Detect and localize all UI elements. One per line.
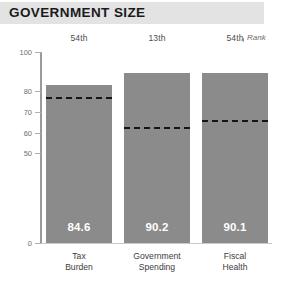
plot-area: 100 80 70 60 50 0 84.6 90.2 90.1 Tax Bur… [0,0,282,283]
bar-tax-burden [46,85,112,243]
bar-fiscal-health [202,73,268,243]
average-line-fiscal-health [202,120,268,122]
average-line-tax-burden [46,97,112,99]
y-tick-mark-50 [35,153,41,154]
y-tick-mark-100 [35,52,41,53]
x-axis-baseline [40,243,272,244]
bar-government-spending [124,73,190,243]
average-line-government-spending [124,127,190,129]
bar-value-tax-burden: 84.6 [46,221,112,233]
category-label-line-2: Burden [40,262,118,273]
category-label-fiscal-health: Fiscal Health [196,251,274,272]
category-label-tax-burden: Tax Burden [40,251,118,272]
chart-card: GOVERNMENT SIZE 54th 13th 54th Rank 100 … [0,0,282,283]
y-tick-mark-80 [35,91,41,92]
category-label-line-2: Spending [118,262,196,273]
bar-value-government-spending: 90.2 [124,221,190,233]
y-tick-label-50: 50 [2,149,32,158]
y-tick-label-70: 70 [2,108,32,117]
y-tick-mark-60 [35,133,41,134]
bar-value-fiscal-health: 90.1 [202,221,268,233]
y-tick-mark-0 [35,243,41,244]
category-label-line-2: Health [196,262,274,273]
category-label-line-1: Fiscal [224,251,246,261]
category-label-government-spending: Government Spending [118,251,196,272]
y-tick-label-80: 80 [2,87,32,96]
y-tick-mark-70 [35,112,41,113]
category-label-line-1: Tax [72,251,85,261]
y-axis-line [40,52,42,243]
y-tick-label-0: 0 [2,239,32,248]
y-tick-label-60: 60 [2,129,32,138]
category-label-line-1: Government [133,251,180,261]
y-tick-label-100: 100 [2,48,32,57]
